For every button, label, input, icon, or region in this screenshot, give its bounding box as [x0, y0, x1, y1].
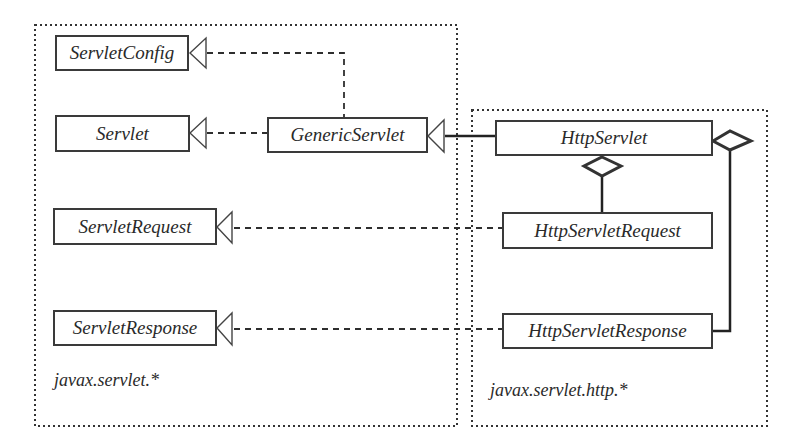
aggregation-httpservlet-httpservletresponse — [712, 131, 751, 331]
class-name: Servlet — [96, 123, 149, 145]
class-name: HttpServletRequest — [534, 220, 681, 242]
aggregation-httpservlet-httpservletrequest — [584, 157, 621, 212]
realization-httpservletrequest-servletrequest — [217, 212, 502, 243]
package-label-javax-servlet-http: javax.servlet.http.* — [490, 380, 627, 401]
class-name: ServletResponse — [73, 317, 198, 339]
class-httpservletrequest[interactable]: HttpServletRequest — [502, 212, 713, 249]
class-servletresponse[interactable]: ServletResponse — [53, 310, 217, 346]
class-servletrequest[interactable]: ServletRequest — [53, 208, 217, 245]
generalization-httpservlet-genericservlet — [428, 120, 495, 152]
class-name: HttpServlet — [561, 127, 648, 149]
realization-genericservlet-servlet — [190, 118, 267, 148]
class-name: HttpServletResponse — [528, 320, 686, 342]
class-name: ServletConfig — [70, 42, 174, 64]
class-httpservlet[interactable]: HttpServlet — [495, 120, 713, 156]
class-name: ServletRequest — [79, 216, 192, 238]
class-httpservletresponse[interactable]: HttpServletResponse — [502, 313, 713, 349]
class-genericservlet[interactable]: GenericServlet — [267, 117, 428, 153]
realization-genericservlet-servletconfig — [190, 38, 344, 117]
package-label-javax-servlet: javax.servlet.* — [54, 370, 159, 391]
class-servlet[interactable]: Servlet — [55, 115, 190, 152]
uml-diagram: ServletConfig Servlet GenericServlet Ser… — [0, 0, 796, 447]
package-boundary-javax-servlet-http — [472, 110, 767, 426]
class-name: GenericServlet — [291, 124, 405, 146]
realization-httpservletresponse-servletresponse — [217, 313, 502, 345]
class-servletconfig[interactable]: ServletConfig — [55, 35, 189, 71]
